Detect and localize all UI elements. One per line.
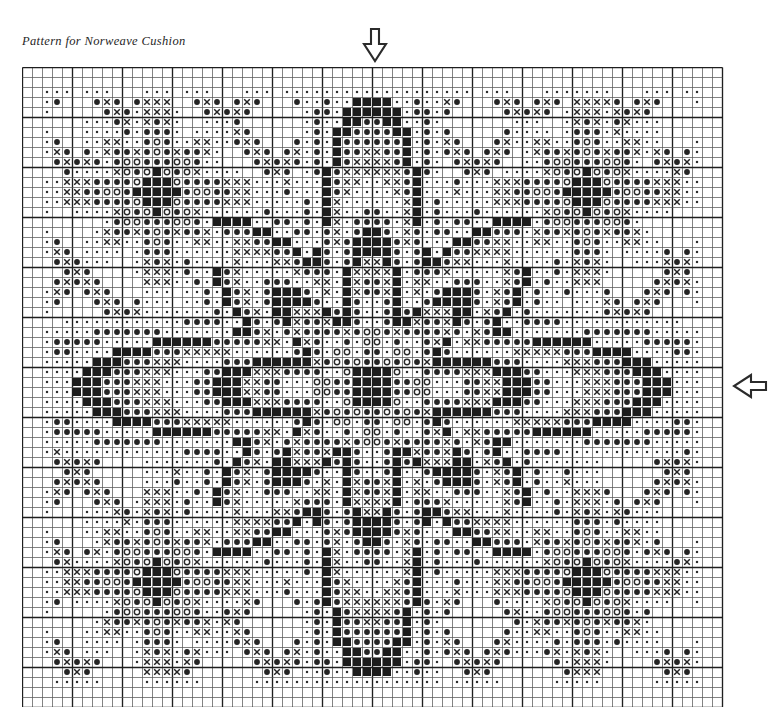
top-center-arrow-icon bbox=[361, 27, 389, 63]
pattern-grid bbox=[22, 67, 728, 707]
right-center-arrow-icon bbox=[732, 372, 768, 400]
pattern-page: Pattern for Norweave Cushion bbox=[0, 0, 769, 725]
pattern-grid-canvas bbox=[22, 67, 728, 707]
page-title: Pattern for Norweave Cushion bbox=[22, 34, 186, 49]
